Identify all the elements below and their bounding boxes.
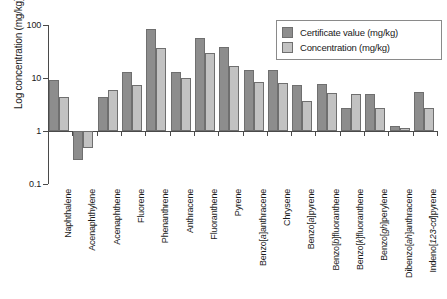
bar <box>302 101 312 131</box>
x-tick <box>145 131 146 136</box>
bar <box>146 29 156 131</box>
x-tick-label: Benzo[gh]perylene <box>380 189 389 261</box>
bar <box>195 38 205 131</box>
y-tick-label: 1 <box>36 127 41 136</box>
x-tick-label: Phenanthrene <box>161 189 170 243</box>
bar <box>156 48 166 131</box>
bar <box>49 80 59 131</box>
y-axis-title: Log concentration (mg/kg) <box>13 0 24 134</box>
x-tick-label: Naphthalene <box>64 189 73 238</box>
x-tick-label: Fluorene <box>137 189 146 223</box>
x-tick-label: Anthracene <box>186 189 195 233</box>
bar-chart: 1001010.1 Log concentration (mg/kg) Naph… <box>0 0 447 299</box>
y-tick <box>43 184 48 185</box>
x-tick-label: Benzo[a]anthracene <box>259 189 268 266</box>
x-tick-label: Chrysene <box>283 189 292 226</box>
bar <box>424 108 434 131</box>
bar <box>205 53 215 131</box>
bar <box>98 97 108 131</box>
bar <box>59 97 69 131</box>
x-tick <box>170 131 171 136</box>
x-tick <box>243 131 244 136</box>
bar <box>108 90 118 131</box>
bar <box>181 78 191 131</box>
bar <box>122 72 132 131</box>
bar <box>341 108 351 131</box>
x-tick-label: Benzo[b]fluoranthene <box>332 189 341 271</box>
y-tick-label: 0.1 <box>29 180 41 189</box>
bar <box>317 84 327 131</box>
x-tick <box>413 131 414 136</box>
bar <box>414 92 424 131</box>
bar <box>132 85 142 131</box>
bar <box>390 126 400 131</box>
x-tick <box>315 131 316 136</box>
bar <box>83 131 93 148</box>
legend-label: Certificate value (mg/kg) <box>300 28 398 38</box>
bar <box>351 94 361 131</box>
x-tick-label: Indeno[123-cd]pyrene <box>429 189 438 273</box>
bar <box>375 108 385 131</box>
legend-item: Concentration (mg/kg) <box>282 40 435 55</box>
x-tick-label: Acenaphthylene <box>88 189 97 251</box>
legend-swatch-cert <box>282 27 293 38</box>
bar <box>365 94 375 131</box>
bar <box>327 93 337 131</box>
x-tick-label: Dibenzo[ah]anthracene <box>405 189 414 278</box>
bar <box>268 70 278 131</box>
bar <box>219 47 229 131</box>
bar <box>292 85 302 131</box>
bar <box>229 66 239 131</box>
bar <box>73 131 83 160</box>
x-tick-label: Pyrene <box>234 189 243 216</box>
bar <box>278 83 288 131</box>
x-tick <box>267 131 268 136</box>
legend-item: Certificate value (mg/kg) <box>282 25 435 40</box>
bar <box>254 82 264 131</box>
x-tick <box>121 131 122 136</box>
x-tick <box>48 131 49 136</box>
x-tick-label: Benzo[a]pyrene <box>307 189 316 249</box>
x-tick <box>218 131 219 136</box>
x-tick <box>340 131 341 136</box>
bar <box>171 72 181 131</box>
x-tick-label: Benzo[k]fluoranthene <box>356 189 365 270</box>
legend-swatch-conc <box>282 42 293 53</box>
x-tick <box>364 131 365 136</box>
x-tick <box>194 131 195 136</box>
x-tick <box>388 131 389 136</box>
chart-legend: Certificate value (mg/kg)Concentration (… <box>276 20 442 60</box>
x-tick-label: Acenaphthene <box>113 189 122 245</box>
legend-label: Concentration (mg/kg) <box>300 43 390 53</box>
x-tick-label: Fluoranthene <box>210 189 219 240</box>
x-tick <box>437 131 438 136</box>
y-tick-label: 100 <box>27 21 41 30</box>
x-tick <box>72 131 73 136</box>
y-tick-label: 10 <box>31 74 41 83</box>
x-tick <box>97 131 98 136</box>
x-tick <box>291 131 292 136</box>
bar <box>400 128 410 131</box>
bar <box>244 70 254 131</box>
